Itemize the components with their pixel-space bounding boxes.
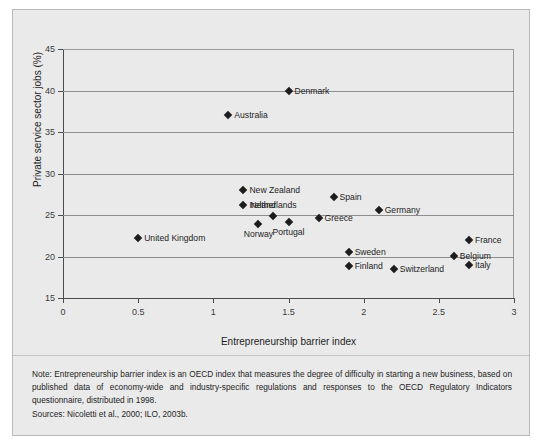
x-tick-mark-5 xyxy=(439,298,440,303)
data-point-label: Spain xyxy=(340,193,362,202)
y-tick-mark-30 xyxy=(58,174,63,175)
x-tick-label-1: 0.5 xyxy=(132,307,145,317)
x-tick-label-0: 0 xyxy=(60,307,65,317)
x-tick-mark-0 xyxy=(63,298,64,303)
footer-divider xyxy=(13,355,529,356)
data-point-label: Finland xyxy=(355,262,383,271)
data-point-label: France xyxy=(475,236,502,245)
data-point-label: Italy xyxy=(475,261,491,270)
data-point-label: Portugal xyxy=(272,228,304,237)
note-text: Note: Entrepreneurship barrier index is … xyxy=(32,368,512,407)
data-point-label: Belgium xyxy=(460,252,491,261)
data-point-label: Denmark xyxy=(295,87,330,96)
x-tick-mark-3 xyxy=(289,298,290,303)
x-tick-label-3: 1.5 xyxy=(282,307,295,317)
y-tick-mark-40 xyxy=(58,91,63,92)
y-tick-label-35: 35 xyxy=(45,127,55,137)
footer: Note: Entrepreneurship barrier index is … xyxy=(32,368,512,420)
y-axis-title: Private service sector jobs (%) xyxy=(32,10,43,230)
y-tick-mark-45 xyxy=(58,49,63,50)
y-tick-mark-25 xyxy=(58,215,63,216)
gridline-20 xyxy=(63,257,514,258)
data-point-label: Switzerland xyxy=(400,265,444,274)
y-tick-label-40: 40 xyxy=(45,86,55,96)
x-axis-title: Entrepreneurship barrier index xyxy=(63,336,514,347)
x-tick-label-4: 2 xyxy=(361,307,366,317)
x-tick-mark-6 xyxy=(514,298,515,303)
data-point-label: United Kingdom xyxy=(144,234,205,243)
y-tick-mark-35 xyxy=(58,132,63,133)
y-tick-label-15: 15 xyxy=(45,293,55,303)
x-tick-label-2: 1 xyxy=(211,307,216,317)
y-tick-label-30: 30 xyxy=(45,169,55,179)
x-tick-mark-4 xyxy=(364,298,365,303)
data-point-label: Germany xyxy=(385,206,420,215)
figure-panel: 15202530354045 00.511.522.53 DenmarkAust… xyxy=(12,9,530,436)
gridline-35 xyxy=(63,132,514,133)
y-tick-mark-20 xyxy=(58,257,63,258)
y-tick-label-25: 25 xyxy=(45,210,55,220)
data-point-label: Greece xyxy=(325,214,353,223)
x-tick-label-6: 3 xyxy=(511,307,516,317)
x-tick-mark-2 xyxy=(213,298,214,303)
gridline-30 xyxy=(63,174,514,175)
y-tick-label-45: 45 xyxy=(45,44,55,54)
sources-text: Sources: Nicoletti et al., 2000; ILO, 20… xyxy=(32,407,512,421)
y-tick-label-20: 20 xyxy=(45,252,55,262)
data-point-label: New Zealand xyxy=(249,186,300,195)
data-point-label: Sweden xyxy=(355,248,386,257)
data-point-label: Norway xyxy=(244,230,273,239)
data-point-label: Netherlands xyxy=(250,201,296,210)
data-point-label: Australia xyxy=(234,111,267,120)
plot-area: 15202530354045 00.511.522.53 DenmarkAust… xyxy=(63,49,514,298)
x-tick-mark-1 xyxy=(138,298,139,303)
gridline-45 xyxy=(63,49,514,50)
x-tick-label-5: 2.5 xyxy=(433,307,446,317)
gridline-25 xyxy=(63,215,514,216)
